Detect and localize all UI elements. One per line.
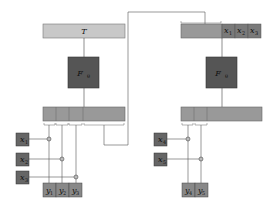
svg-text:θ: θ: [225, 73, 228, 79]
svg-text:4: 4: [189, 190, 192, 196]
combine-node: [74, 175, 78, 179]
model-box-left-sub: θ: [87, 73, 90, 79]
svg-text:5: 5: [163, 159, 166, 165]
svg-text:2: 2: [63, 190, 66, 196]
combine-node: [60, 157, 64, 161]
model-box-right: [206, 57, 237, 88]
svg-text:2: 2: [25, 159, 28, 165]
svg-text:2: 2: [242, 30, 245, 36]
svg-text:4: 4: [163, 139, 166, 145]
svg-text:1: 1: [25, 139, 28, 145]
model-box-left-label: F: [76, 69, 83, 78]
output-bar-left: [43, 107, 125, 121]
svg-text:1: 1: [50, 190, 53, 196]
svg-text:F: F: [214, 69, 221, 78]
combine-node: [47, 137, 51, 141]
svg-text:1: 1: [229, 30, 232, 36]
svg-text:3: 3: [25, 177, 28, 183]
prompt-box-left-label: T: [81, 27, 87, 36]
svg-text:3: 3: [76, 190, 79, 196]
model-box-left: [68, 57, 99, 88]
combine-node: [199, 157, 203, 161]
output-bar-right: [181, 107, 262, 121]
svg-text:5: 5: [202, 190, 205, 196]
prompt-box-right: [181, 24, 222, 38]
svg-text:3: 3: [255, 30, 258, 36]
combine-node: [186, 137, 190, 141]
diagram-canvas: T F θ x 1 x 2 x 3 y 1 y 2 y 3 x 1 x 2 x …: [0, 0, 278, 210]
